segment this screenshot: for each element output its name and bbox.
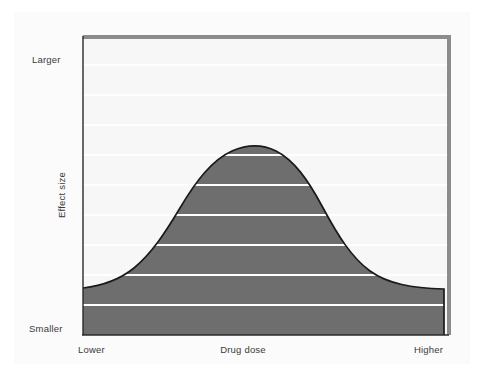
x-axis-title: Drug dose bbox=[0, 344, 486, 355]
y-axis-title-wrap: Effect size bbox=[44, 160, 78, 230]
y-tick-label-smaller: Smaller bbox=[29, 323, 63, 334]
y-axis-title: Effect size bbox=[56, 172, 67, 218]
y-tick-label-larger: Larger bbox=[32, 54, 61, 65]
chart-figure: Larger Smaller Lower Higher Effect size … bbox=[0, 0, 486, 377]
